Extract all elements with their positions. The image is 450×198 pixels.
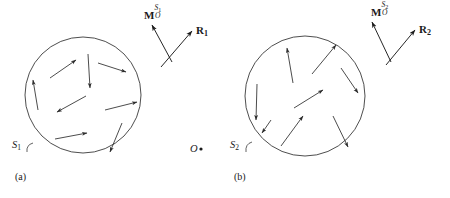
panel-caption-a: (a) [15, 172, 26, 182]
dipole-arrow [262, 120, 271, 133]
dipole-arrow [57, 96, 86, 112]
origin-label: O [190, 144, 198, 155]
dipole-arrow [294, 90, 323, 108]
surface-circle-s1 [25, 37, 141, 153]
panel-caption-b: (b) [234, 172, 246, 182]
surface-circle-s2 [245, 36, 365, 156]
dipole-arrow [98, 63, 126, 72]
dipole-arrows-s2 [256, 45, 358, 147]
moment-vector-arrow-s1 [152, 25, 172, 62]
surface-leader-s2 [246, 142, 252, 152]
surface-label-s1: S1 [12, 140, 21, 152]
dipole-arrows-s1 [33, 54, 137, 152]
surface-leader-s1 [27, 143, 33, 152]
moment-vector-label-s1: MS1O [144, 8, 163, 21]
dipole-arrow [256, 84, 257, 120]
surface-label-s2: S2 [230, 140, 239, 152]
dipole-arrow [50, 60, 76, 78]
dipole-arrow [341, 68, 358, 93]
dipole-arrow [281, 116, 303, 146]
dipole-arrow [287, 48, 293, 83]
dipole-arrow [110, 123, 122, 152]
panel-a-group [25, 25, 192, 153]
figure-canvas [0, 0, 450, 198]
position-vector-arrow-r1 [161, 31, 192, 67]
dipole-arrow [33, 80, 38, 110]
origin-dot [199, 147, 202, 150]
dipole-arrow [312, 45, 336, 74]
position-vector-label-r2: R2 [419, 24, 431, 37]
position-vector-arrow-r2 [386, 30, 415, 65]
dipole-arrow [333, 116, 348, 147]
vector-field-figure: MS1O R1 S1 (a) MS2O R2 S2 (b) O [0, 0, 450, 198]
moment-vector-label-s2: MS2O [371, 5, 390, 18]
dipole-arrow [55, 133, 87, 139]
position-vector-label-r1: R1 [196, 25, 208, 38]
dipole-arrow [105, 102, 137, 110]
panel-b-group [245, 22, 415, 156]
moment-vector-arrow-s2 [372, 22, 391, 62]
dipole-arrow [88, 54, 90, 88]
